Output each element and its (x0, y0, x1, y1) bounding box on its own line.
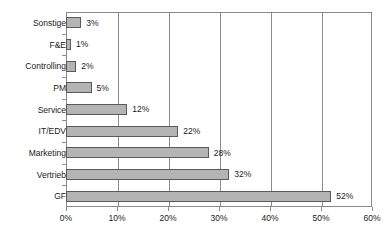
y-axis-tick (62, 142, 66, 143)
bar (66, 82, 92, 93)
y-axis-tick (62, 99, 66, 100)
y-axis-tick (62, 77, 66, 78)
x-axis-tick (270, 207, 271, 211)
category-label: IT/EDV (6, 127, 66, 136)
bar-row: 1% (66, 34, 389, 56)
bar (66, 169, 229, 180)
bar-value-label: 52% (336, 192, 353, 201)
bar-row: 5% (66, 77, 389, 99)
bar-row: 52% (66, 185, 389, 207)
x-axis-tick-label: 60% (352, 214, 389, 223)
x-axis-tick (117, 207, 118, 211)
bar (66, 104, 127, 115)
x-axis-tick-label: 0% (46, 214, 86, 223)
bar-row: 3% (66, 12, 389, 34)
bar (66, 61, 76, 72)
bar (66, 17, 81, 28)
bar-row: 2% (66, 55, 389, 77)
bar-value-label: 3% (86, 19, 98, 28)
bar-value-label: 1% (76, 40, 88, 49)
x-axis-tick (219, 207, 220, 211)
y-axis-tick (62, 120, 66, 121)
x-axis-tick-label: 10% (97, 214, 137, 223)
x-axis-tick-label: 20% (148, 214, 188, 223)
category-label: F&E (6, 41, 66, 50)
category-label: Sonstige (6, 19, 66, 28)
category-label: Vertrieb (6, 171, 66, 180)
bar-value-label: 5% (97, 84, 109, 93)
bar-chart: (function () { const data = JSON.parse(d… (0, 0, 389, 239)
bar (66, 39, 71, 50)
x-axis-tick (321, 207, 322, 211)
y-axis-tick (62, 185, 66, 186)
x-axis-tick-label: 40% (250, 214, 290, 223)
category-label: PM (6, 84, 66, 93)
bar-row: 12% (66, 99, 389, 121)
x-axis-tick (372, 207, 373, 211)
x-axis-tick (168, 207, 169, 211)
bar-value-label: 2% (81, 62, 93, 71)
bar-value-label: 12% (132, 105, 149, 114)
bar-row: 22% (66, 120, 389, 142)
y-axis-tick (62, 164, 66, 165)
bar-value-label: 22% (183, 127, 200, 136)
x-axis-tick-label: 30% (199, 214, 239, 223)
bar (66, 126, 178, 137)
bar-row: 28% (66, 142, 389, 164)
category-label: Service (6, 106, 66, 115)
bar (66, 147, 209, 158)
bar-value-label: 28% (214, 149, 231, 158)
bar (66, 191, 331, 202)
category-label: Controlling (6, 62, 66, 71)
y-axis-tick (62, 34, 66, 35)
category-label: Marketing (6, 149, 66, 158)
x-axis-tick-label: 50% (301, 214, 341, 223)
bar-row: 32% (66, 164, 389, 186)
y-axis-tick (62, 55, 66, 56)
category-label: GF (6, 192, 66, 201)
bar-value-label: 32% (234, 170, 251, 179)
x-axis-tick (66, 207, 67, 211)
